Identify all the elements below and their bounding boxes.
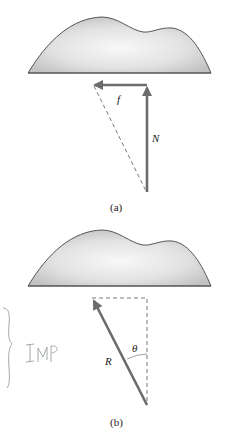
label-r: R bbox=[104, 355, 112, 367]
label-n: N bbox=[151, 132, 160, 144]
panel-b: R θ (b) bbox=[28, 230, 211, 429]
friction-force-diagram: f N (a) R θ (b) IMP bbox=[0, 0, 225, 438]
caption-a: (a) bbox=[110, 201, 123, 214]
panel-a: f N (a) bbox=[28, 17, 211, 214]
contact-body-shape-a bbox=[28, 17, 211, 73]
caption-b: (b) bbox=[110, 416, 123, 429]
angle-arc-theta bbox=[127, 354, 147, 359]
handwritten-annotation: IMP bbox=[3, 308, 57, 388]
imp-handwriting bbox=[26, 344, 57, 362]
imp-text: IMP bbox=[26, 360, 28, 361]
contact-body-shape-b bbox=[28, 230, 211, 286]
label-theta: θ bbox=[132, 342, 138, 354]
curly-brace-icon bbox=[3, 308, 12, 388]
label-f: f bbox=[117, 93, 122, 105]
resultant-arrow-r bbox=[94, 301, 147, 405]
